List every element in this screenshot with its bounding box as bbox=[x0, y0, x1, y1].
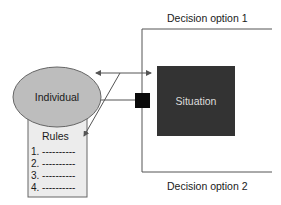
rules-title: Rules bbox=[42, 130, 69, 142]
rule-item: 1. ---------- bbox=[31, 146, 75, 157]
individual-label: Individual bbox=[13, 67, 101, 127]
decision-option-2-label: Decision option 2 bbox=[167, 180, 248, 192]
rule-item: 2. ---------- bbox=[31, 158, 75, 169]
rule-item: 4. ---------- bbox=[31, 182, 75, 193]
rule-item: 3. ---------- bbox=[31, 170, 75, 181]
decision-diagram: Decision option 1 Decision option 2 Indi… bbox=[0, 0, 281, 205]
decision-option-1-label: Decision option 1 bbox=[167, 12, 248, 24]
situation-box: Situation bbox=[157, 66, 235, 136]
situation-label: Situation bbox=[176, 95, 217, 107]
connector-square bbox=[135, 93, 150, 108]
